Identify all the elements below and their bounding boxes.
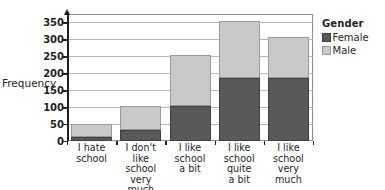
x-label-line: much — [275, 174, 302, 185]
y-tick-label: 350 — [38, 18, 64, 28]
legend-items: FemaleMale — [322, 32, 384, 56]
legend-swatch-male — [322, 46, 331, 55]
bar-segment-female[interactable] — [219, 78, 260, 141]
x-label-line: school — [273, 153, 304, 164]
y-tick-label: 200 — [38, 69, 64, 79]
y-tick-label: 0 — [38, 137, 64, 147]
bar-group[interactable] — [268, 14, 309, 141]
legend-item[interactable]: Female — [322, 32, 384, 43]
y-tick-labels: 050100150200250300350 — [36, 0, 64, 190]
y-tick-label: 150 — [38, 86, 64, 96]
x-label-line: I like — [277, 142, 299, 153]
bar-segment-male[interactable] — [268, 37, 309, 78]
bar-segment-male[interactable] — [120, 106, 161, 129]
x-label-line: school — [125, 163, 156, 174]
legend-swatch-female — [322, 33, 331, 42]
bar-group[interactable] — [71, 14, 112, 141]
x-label-line: school — [76, 153, 107, 164]
x-axis-category-label: I don'tlikeschoolvery much — [116, 143, 165, 190]
bar-segment-female[interactable] — [120, 130, 161, 141]
bar-segment-female[interactable] — [71, 137, 112, 141]
bar-group[interactable] — [219, 14, 260, 141]
x-label-line: a bit — [179, 163, 200, 174]
x-axis-labels: I hateschoolI don'tlikeschoolvery muchI … — [67, 143, 313, 190]
bar-group[interactable] — [120, 14, 161, 141]
y-tick-label: 50 — [38, 120, 64, 130]
y-tick-label: 100 — [38, 103, 64, 113]
x-label-line: I like — [179, 142, 201, 153]
bar-group[interactable] — [170, 14, 211, 141]
x-label-line: school — [224, 153, 255, 164]
x-tick-mark — [313, 141, 314, 145]
bars-layer — [67, 14, 313, 141]
x-label-line: quite — [227, 163, 252, 174]
x-axis-category-label: I hateschool — [67, 143, 116, 164]
x-label-line: school — [175, 153, 206, 164]
bar-segment-male[interactable] — [170, 55, 211, 106]
legend-title: Gender — [322, 18, 384, 29]
x-axis-category-label: I likeschoolverymuch — [264, 143, 313, 185]
x-label-line: very much — [127, 174, 154, 190]
legend-label: Male — [333, 45, 357, 56]
bar-segment-female[interactable] — [268, 78, 309, 141]
x-label-line: I like — [228, 142, 250, 153]
legend: Gender FemaleMale — [322, 18, 384, 58]
x-label-line: I don't — [126, 142, 156, 153]
x-label-line: I hate — [78, 142, 106, 153]
x-label-line: very — [278, 163, 299, 174]
y-tick-label: 250 — [38, 52, 64, 62]
legend-item[interactable]: Male — [322, 45, 384, 56]
y-tick-label: 300 — [38, 35, 64, 45]
x-axis-category-label: I likeschoola bit — [165, 143, 214, 175]
bar-segment-female[interactable] — [170, 106, 211, 141]
x-axis-category-label: I likeschoolquitea bit — [215, 143, 264, 185]
bar-segment-male[interactable] — [71, 124, 112, 137]
bar-segment-male[interactable] — [219, 21, 260, 78]
legend-label: Female — [333, 32, 369, 43]
stacked-bar-chart: Frequency 050100150200250300350 I hatesc… — [0, 0, 385, 190]
x-label-line: a bit — [228, 174, 249, 185]
x-label-line: like — [133, 153, 149, 164]
